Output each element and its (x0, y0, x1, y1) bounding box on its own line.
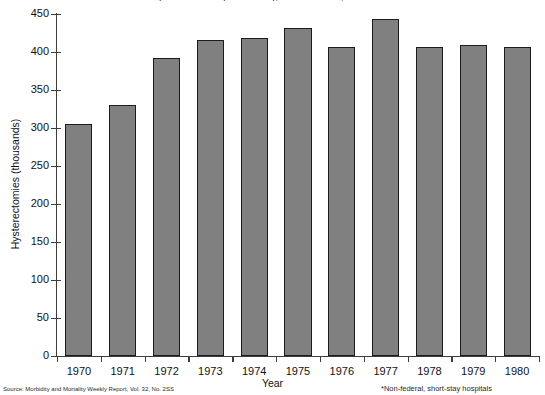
x-axis-tick (451, 356, 452, 362)
y-axis-tick-label: 50 (3, 312, 49, 323)
y-axis-tick (51, 90, 61, 91)
plot-area (57, 14, 539, 356)
bar (65, 124, 92, 356)
y-axis-tick (51, 280, 61, 281)
y-axis-tick (51, 166, 61, 167)
x-axis-tick (57, 356, 58, 362)
bar (372, 19, 399, 356)
bar (504, 47, 531, 356)
bar (416, 47, 443, 356)
x-axis-tick (539, 356, 540, 362)
bar (197, 40, 224, 356)
bar (109, 105, 136, 356)
hospital-footnote: *Non-federal, short-stay hospitals (381, 384, 492, 393)
bar (328, 47, 355, 356)
x-axis-tick-label: 1980 (487, 365, 545, 377)
x-axis-tick (364, 356, 365, 362)
x-axis-tick (145, 356, 146, 362)
bar (153, 58, 180, 356)
y-axis-labels: 050100150200250300350400450 (0, 0, 49, 395)
x-axis-tick (276, 356, 277, 362)
source-note: Source: Morbidity and Mortality Weekly R… (3, 385, 174, 393)
y-axis-tick-label: 450 (3, 8, 49, 19)
x-axis-line (56, 356, 540, 357)
x-axis-tick (232, 356, 233, 362)
x-axis-tick (408, 356, 409, 362)
x-axis-tick (320, 356, 321, 362)
y-axis-tick (51, 128, 61, 129)
bar (284, 28, 311, 356)
x-axis-tick (188, 356, 189, 362)
y-axis-title: Hysterectomies (thousands) (9, 84, 21, 284)
x-axis-tick (495, 356, 496, 362)
y-axis-tick (51, 14, 61, 15)
y-axis-tick (51, 318, 61, 319)
y-axis-tick-label: 0 (3, 350, 49, 361)
bar (241, 38, 268, 356)
y-axis-tick (51, 356, 61, 357)
x-axis-tick (101, 356, 102, 362)
bar (460, 45, 487, 356)
chart-title: Hysterectomies (thousands), United State… (0, 0, 545, 1)
y-axis-tick-label: 400 (3, 46, 49, 57)
y-axis-tick (51, 52, 61, 53)
y-axis-tick (51, 204, 61, 205)
y-axis-tick (51, 242, 61, 243)
